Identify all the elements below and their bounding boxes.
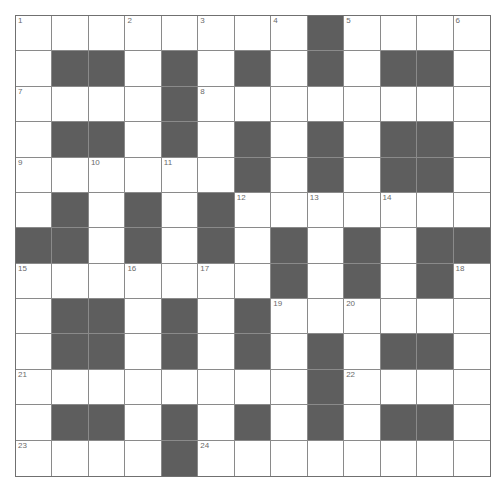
answer-cell[interactable]: 15 [16, 264, 52, 299]
answer-cell[interactable] [16, 122, 52, 157]
answer-cell[interactable] [381, 441, 417, 476]
answer-cell[interactable] [454, 87, 490, 122]
answer-cell[interactable] [344, 122, 380, 157]
answer-cell[interactable] [198, 51, 234, 86]
answer-cell[interactable] [16, 405, 52, 440]
answer-cell[interactable] [52, 158, 88, 193]
answer-cell[interactable] [344, 334, 380, 369]
answer-cell[interactable] [271, 193, 307, 228]
answer-cell[interactable] [454, 158, 490, 193]
answer-cell[interactable] [454, 299, 490, 334]
answer-cell[interactable] [381, 264, 417, 299]
answer-cell[interactable] [271, 334, 307, 369]
answer-cell[interactable] [308, 441, 344, 476]
answer-cell[interactable]: 17 [198, 264, 234, 299]
answer-cell[interactable] [235, 228, 271, 263]
answer-cell[interactable] [344, 158, 380, 193]
answer-cell[interactable]: 23 [16, 441, 52, 476]
answer-cell[interactable] [344, 193, 380, 228]
answer-cell[interactable]: 18 [454, 264, 490, 299]
answer-cell[interactable] [162, 228, 198, 263]
answer-cell[interactable] [381, 87, 417, 122]
answer-cell[interactable] [198, 299, 234, 334]
answer-cell[interactable]: 14 [381, 193, 417, 228]
answer-cell[interactable] [344, 87, 380, 122]
answer-cell[interactable] [162, 193, 198, 228]
answer-cell[interactable] [52, 87, 88, 122]
answer-cell[interactable] [52, 16, 88, 51]
answer-cell[interactable]: 6 [454, 16, 490, 51]
answer-cell[interactable] [16, 51, 52, 86]
answer-cell[interactable] [52, 441, 88, 476]
answer-cell[interactable] [125, 370, 161, 405]
answer-cell[interactable] [89, 228, 125, 263]
answer-cell[interactable]: 16 [125, 264, 161, 299]
answer-cell[interactable] [198, 158, 234, 193]
answer-cell[interactable] [16, 193, 52, 228]
answer-cell[interactable] [89, 193, 125, 228]
answer-cell[interactable] [381, 370, 417, 405]
answer-cell[interactable] [417, 441, 453, 476]
answer-cell[interactable] [454, 51, 490, 86]
answer-cell[interactable]: 20 [344, 299, 380, 334]
answer-cell[interactable]: 7 [16, 87, 52, 122]
answer-cell[interactable] [235, 16, 271, 51]
answer-cell[interactable] [271, 87, 307, 122]
answer-cell[interactable] [381, 16, 417, 51]
answer-cell[interactable] [89, 441, 125, 476]
answer-cell[interactable] [125, 405, 161, 440]
answer-cell[interactable]: 19 [271, 299, 307, 334]
answer-cell[interactable] [271, 51, 307, 86]
answer-cell[interactable] [235, 87, 271, 122]
answer-cell[interactable] [125, 441, 161, 476]
answer-cell[interactable]: 8 [198, 87, 234, 122]
answer-cell[interactable] [89, 370, 125, 405]
answer-cell[interactable] [308, 264, 344, 299]
answer-cell[interactable] [271, 158, 307, 193]
answer-cell[interactable] [198, 370, 234, 405]
answer-cell[interactable] [454, 441, 490, 476]
answer-cell[interactable] [454, 193, 490, 228]
answer-cell[interactable] [16, 299, 52, 334]
answer-cell[interactable] [16, 334, 52, 369]
answer-cell[interactable] [198, 405, 234, 440]
answer-cell[interactable] [271, 370, 307, 405]
answer-cell[interactable] [89, 16, 125, 51]
answer-cell[interactable] [125, 334, 161, 369]
answer-cell[interactable] [344, 405, 380, 440]
answer-cell[interactable]: 3 [198, 16, 234, 51]
answer-cell[interactable] [454, 370, 490, 405]
answer-cell[interactable] [271, 441, 307, 476]
answer-cell[interactable] [52, 264, 88, 299]
answer-cell[interactable] [125, 87, 161, 122]
answer-cell[interactable] [381, 228, 417, 263]
answer-cell[interactable] [308, 228, 344, 263]
answer-cell[interactable] [235, 441, 271, 476]
answer-cell[interactable] [235, 264, 271, 299]
answer-cell[interactable] [162, 370, 198, 405]
answer-cell[interactable]: 1 [16, 16, 52, 51]
answer-cell[interactable] [417, 370, 453, 405]
answer-cell[interactable] [381, 299, 417, 334]
answer-cell[interactable]: 9 [16, 158, 52, 193]
answer-cell[interactable] [308, 299, 344, 334]
answer-cell[interactable] [417, 16, 453, 51]
answer-cell[interactable] [308, 87, 344, 122]
answer-cell[interactable]: 12 [235, 193, 271, 228]
answer-cell[interactable] [271, 405, 307, 440]
answer-cell[interactable] [344, 441, 380, 476]
answer-cell[interactable] [454, 405, 490, 440]
answer-cell[interactable] [417, 87, 453, 122]
answer-cell[interactable]: 10 [89, 158, 125, 193]
answer-cell[interactable] [125, 122, 161, 157]
answer-cell[interactable] [198, 334, 234, 369]
answer-cell[interactable] [454, 334, 490, 369]
answer-cell[interactable] [125, 299, 161, 334]
answer-cell[interactable]: 11 [162, 158, 198, 193]
answer-cell[interactable] [235, 370, 271, 405]
answer-cell[interactable] [454, 122, 490, 157]
answer-cell[interactable] [89, 87, 125, 122]
answer-cell[interactable]: 24 [198, 441, 234, 476]
answer-cell[interactable]: 22 [344, 370, 380, 405]
answer-cell[interactable] [125, 51, 161, 86]
